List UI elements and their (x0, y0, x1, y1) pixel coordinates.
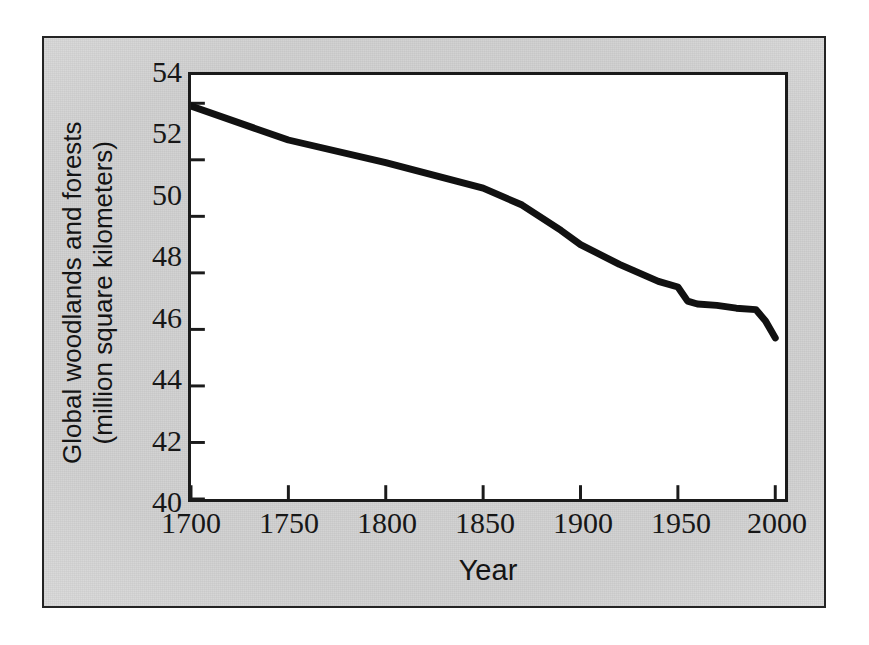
x-axis-tick-labels: 1700 1750 1800 1850 1900 1950 2000 (188, 508, 798, 550)
data-series-line (191, 106, 775, 338)
y-axis-tick-labels: 54 52 50 48 46 44 42 40 (122, 72, 182, 502)
x-tick-label: 1800 (357, 508, 417, 538)
y-tick-label: 52 (130, 118, 182, 148)
x-tick-label: 2000 (747, 508, 807, 538)
line-chart-svg (191, 75, 785, 499)
y-tick-label: 44 (130, 364, 182, 394)
plot-area (188, 72, 788, 502)
y-tick-label: 42 (130, 426, 182, 456)
y-tick-label: 48 (130, 241, 182, 271)
x-axis-title: Year (188, 554, 788, 587)
x-tick-label: 1750 (259, 508, 319, 538)
y-tick-label: 46 (130, 303, 182, 333)
x-tick-label: 1850 (455, 508, 515, 538)
x-tick-label: 1700 (161, 508, 221, 538)
y-tick-label: 54 (130, 57, 182, 87)
x-tick-label: 1950 (651, 508, 711, 538)
x-axis-tick-marks (191, 485, 775, 499)
y-tick-label: 50 (130, 180, 182, 210)
y-axis-tick-marks (191, 103, 205, 499)
y-axis-title: Global woodlands and forests (million sq… (57, 73, 118, 513)
y-axis-title-line2: (million square kilometers) (88, 73, 119, 513)
x-tick-label: 1900 (553, 508, 613, 538)
y-axis-title-line1: Global woodlands and forests (57, 73, 88, 513)
figure-panel: Global woodlands and forests (million sq… (42, 36, 826, 608)
